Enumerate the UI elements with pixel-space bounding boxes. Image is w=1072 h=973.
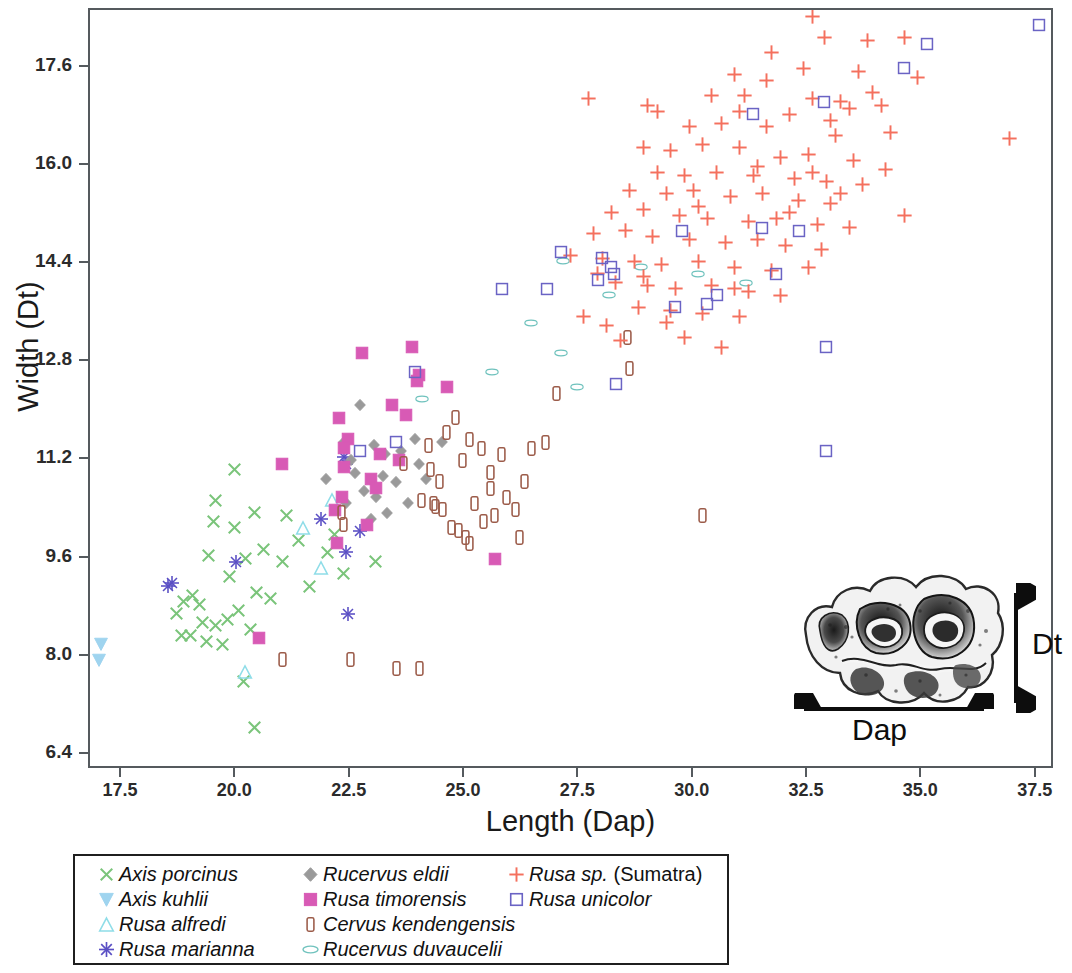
data-point (713, 115, 730, 136)
data-point (804, 164, 821, 185)
data-point (575, 308, 592, 329)
x-tick-mark (233, 768, 235, 777)
data-point (274, 553, 291, 574)
y-tick-label: 12.8 (10, 348, 72, 370)
y-tick-mark (79, 752, 88, 754)
data-point (205, 513, 222, 534)
legend-item[interactable]: Rusa timorensis (297, 887, 515, 912)
data-point (726, 280, 743, 301)
y-tick-mark (79, 654, 88, 656)
data-point (226, 519, 243, 540)
data-point (708, 164, 725, 185)
data-point (726, 66, 743, 87)
data-point (431, 473, 448, 494)
y-tick-label: 9.6 (10, 545, 72, 567)
x-cross-icon (93, 866, 119, 883)
data-point (353, 398, 367, 416)
legend-item-label: Rusa alfredi (119, 913, 226, 936)
data-point (896, 60, 912, 80)
data-point (295, 520, 311, 540)
data-point (214, 636, 231, 657)
data-point (816, 29, 833, 50)
y-tick-mark (79, 261, 88, 263)
data-point (754, 185, 771, 206)
legend-column: Rucervus eldiiRusa timorensisCervus kend… (297, 862, 515, 962)
data-point (447, 409, 464, 430)
data-point (473, 440, 490, 461)
legend-item[interactable]: Axis kuhlii (93, 887, 255, 912)
data-point (690, 198, 707, 219)
data-point (411, 660, 428, 681)
data-point (485, 365, 499, 383)
data-point (804, 8, 821, 29)
data-point (342, 651, 359, 672)
data-point (524, 316, 538, 334)
data-point (335, 516, 352, 537)
data-point (340, 606, 356, 626)
legend-item-label: Rucervus duvaucelii (323, 938, 502, 961)
data-point (251, 630, 267, 650)
data-point (493, 446, 510, 467)
legend-item[interactable]: Rusa unicolor (503, 887, 702, 912)
data-point (262, 590, 279, 611)
data-point (877, 161, 894, 182)
legend-item[interactable]: Rucervus eldii (297, 862, 515, 887)
data-point (859, 32, 876, 53)
data-point (699, 296, 715, 316)
scatter-plot-figure: Width (Dt) Length (Dap) (0, 0, 1072, 973)
data-point (731, 139, 748, 160)
legend-item-label: Cervus kendengensis (323, 913, 515, 936)
data-point (384, 397, 400, 417)
x-tick-mark (462, 768, 464, 777)
x-tick-label: 35.0 (885, 780, 955, 801)
data-point (644, 228, 661, 249)
y-tick-mark (79, 457, 88, 459)
open-rect-icon (297, 916, 323, 933)
legend-item-label-suffix: (Sumatra) (613, 863, 702, 885)
legend-item[interactable]: Rusa sp. (Sumatra) (503, 862, 702, 887)
x-tick-label: 30.0 (657, 780, 727, 801)
data-point (91, 652, 107, 672)
data-point (818, 443, 834, 463)
data-point (511, 529, 528, 550)
data-point (395, 455, 412, 476)
data-point (919, 36, 935, 56)
data-point (1001, 130, 1018, 151)
data-point (882, 124, 899, 145)
data-point (850, 63, 867, 84)
dt-label: Dt (1032, 627, 1062, 661)
legend-item[interactable]: Rusa alfredi (93, 912, 255, 937)
data-point (507, 501, 524, 522)
data-point (667, 299, 683, 319)
ellipse-icon (297, 941, 323, 958)
data-point (329, 535, 345, 555)
data-point (237, 664, 253, 684)
legend-item[interactable]: Cervus kendengensis (297, 912, 515, 937)
legend-item[interactable]: Rucervus duvaucelii (297, 937, 515, 962)
x-tick-mark (805, 768, 807, 777)
data-point (690, 253, 707, 274)
legend-item[interactable]: Rusa marianna (93, 937, 255, 962)
y-tick-mark (79, 556, 88, 558)
data-point (226, 461, 243, 482)
data-point (407, 364, 423, 384)
legend-item-label: Rusa sp. (Sumatra) (529, 863, 702, 886)
data-point (832, 185, 849, 206)
data-point (676, 329, 693, 350)
data-point (482, 480, 499, 501)
data-point (896, 29, 913, 50)
x-tick-label: 27.5 (542, 780, 612, 801)
data-point (703, 87, 720, 108)
data-point (674, 223, 690, 243)
legend-item[interactable]: Axis porcinus (93, 862, 255, 887)
data-point (617, 222, 634, 243)
data-point (816, 94, 832, 114)
data-point (388, 434, 404, 454)
data-point (246, 504, 263, 525)
y-tick-label: 16.0 (10, 152, 72, 174)
data-point (313, 560, 329, 580)
x-tick-mark (1034, 768, 1036, 777)
data-point (772, 287, 789, 308)
legend-item-label: Axis porcinus (119, 863, 238, 886)
data-point (160, 578, 176, 598)
